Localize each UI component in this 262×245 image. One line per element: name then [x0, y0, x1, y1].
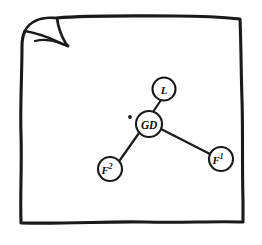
node-f1-superscript: 1 [220, 151, 224, 160]
node-f2[interactable]: F2 [98, 157, 122, 181]
node-gd[interactable]: GD [136, 111, 162, 137]
center-dot-marker [128, 115, 132, 119]
sketch-figure: GD L F2 F1 [0, 0, 262, 245]
node-gd-label: GD [141, 119, 158, 131]
canvas-background [0, 0, 262, 245]
node-l[interactable]: L [153, 78, 176, 101]
sketch-canvas: GD L F2 F1 [0, 0, 262, 245]
node-f1[interactable]: F1 [209, 147, 233, 171]
node-f2-superscript: 2 [108, 161, 113, 170]
node-l-label: L [160, 84, 168, 96]
